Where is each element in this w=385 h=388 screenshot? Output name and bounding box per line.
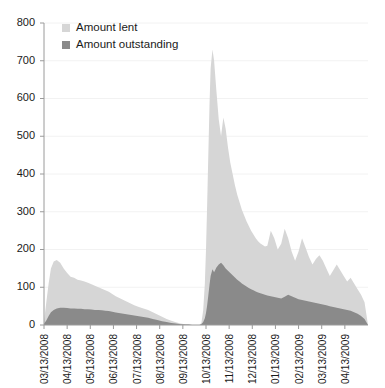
y-tick-labels: 0100200300400500600700800	[17, 16, 35, 330]
x-tick-labels: 03/13/200804/13/200805/13/200806/13/2008…	[39, 334, 351, 384]
x-tick-label: 10/13/2008	[201, 334, 212, 384]
y-tick-label: 0	[29, 318, 35, 330]
series-area-amount-lent	[44, 49, 368, 325]
x-tick-label: 06/13/2008	[108, 334, 119, 384]
legend-swatch	[62, 41, 70, 49]
x-tick-label: 02/13/2009	[294, 334, 305, 384]
x-tick-label: 01/13/2009	[270, 334, 281, 384]
chart-container: 0100200300400500600700800 03/13/200804/1…	[0, 0, 385, 388]
series-group	[44, 49, 368, 325]
legend-label: Amount lent	[76, 21, 138, 33]
y-tick-label: 300	[17, 205, 35, 217]
y-tick-label: 800	[17, 16, 35, 28]
x-tick-label: 12/13/2008	[247, 334, 258, 384]
y-tick-label: 700	[17, 54, 35, 66]
y-axis	[40, 23, 44, 325]
x-tick-label: 03/13/2008	[39, 334, 50, 384]
y-tick-label: 400	[17, 167, 35, 179]
x-tick-label: 04/13/2009	[340, 334, 351, 384]
gridlines-group	[44, 23, 368, 287]
y-tick-label: 600	[17, 91, 35, 103]
chart-legend: Amount lentAmount outstanding	[62, 21, 178, 50]
y-tick-label: 100	[17, 280, 35, 292]
x-tick-label: 07/13/2008	[132, 334, 143, 384]
x-axis	[44, 325, 368, 329]
x-tick-label: 08/13/2008	[155, 334, 166, 384]
y-tick-label: 500	[17, 129, 35, 141]
x-tick-label: 11/13/2008	[224, 334, 235, 384]
x-tick-label: 05/13/2008	[85, 334, 96, 384]
legend-label: Amount outstanding	[76, 38, 178, 50]
legend-swatch	[62, 24, 70, 32]
area-chart: 0100200300400500600700800 03/13/200804/1…	[0, 0, 385, 388]
x-tick-label: 03/13/2009	[317, 334, 328, 384]
x-tick-label: 04/13/2008	[62, 334, 73, 384]
y-tick-label: 200	[17, 242, 35, 254]
x-tick-label: 09/13/2008	[178, 334, 189, 384]
